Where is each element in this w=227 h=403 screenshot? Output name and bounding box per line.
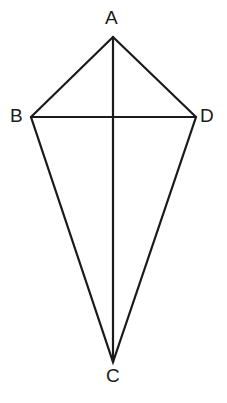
vertex-label-c: C bbox=[106, 366, 120, 385]
vertex-label-a: A bbox=[105, 8, 118, 27]
vertex-label-d: D bbox=[200, 106, 214, 125]
vertex-label-b: B bbox=[10, 106, 23, 125]
kite-diagram-figure: A B C D bbox=[0, 0, 227, 403]
kite-shape-svg bbox=[0, 0, 227, 403]
